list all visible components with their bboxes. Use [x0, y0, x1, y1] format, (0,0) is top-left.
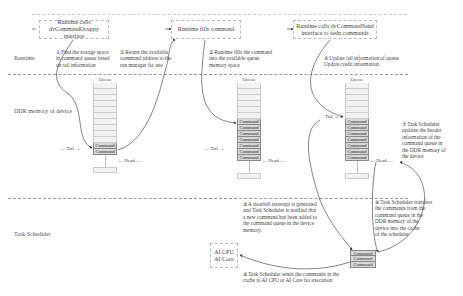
flow-arrows	[0, 0, 463, 296]
arrow-step-5	[308, 120, 352, 250]
arrow-step-3	[202, 40, 236, 123]
arrow-step-4	[311, 40, 343, 117]
arrow-step-8	[240, 255, 350, 269]
arrow-step-6	[372, 162, 378, 252]
arrow-step-2	[118, 40, 175, 150]
arrow-step-1	[57, 40, 92, 148]
arrow-step-7	[378, 162, 425, 252]
